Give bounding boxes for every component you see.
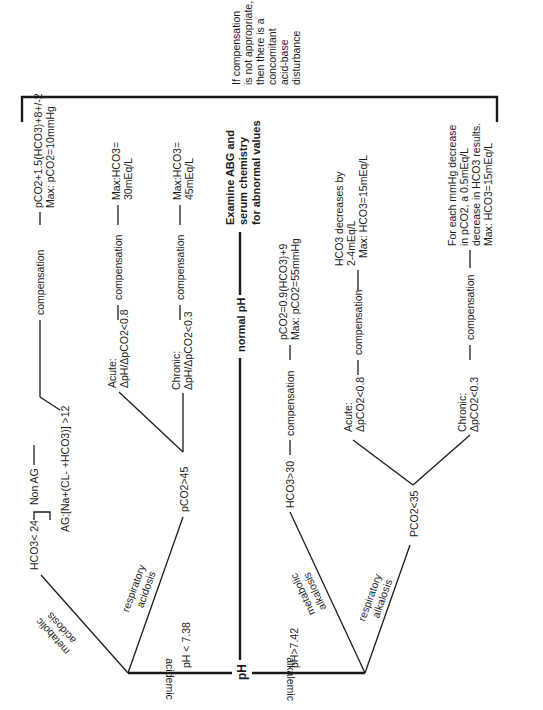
resp-acid-acute-label-2: ΔpH/ΔpCO2<0.8 (118, 309, 130, 388)
resp-alk-chronic-result-4: Max: HCO3=15mEq/L (482, 143, 494, 246)
met-alk-compensation: compensation (284, 370, 296, 436)
ag-formula: AG:[Na+(CL- +HCO3)] >12 (59, 406, 71, 532)
met-acid-formula-2: Max: pCO2=10mmHg (44, 106, 56, 208)
resp-acid-chronic-result-2: 45mEq/L (183, 158, 195, 200)
resp-alk-criterion: PCO2<35 (408, 490, 420, 537)
respiratory-acidosis-label: respiratory acidosis (119, 562, 159, 618)
note-line-3: then there is a (254, 18, 266, 85)
ag-split-line (34, 512, 50, 520)
met-acid-compensation: compensation (34, 249, 46, 315)
root-ph-label: pH (235, 664, 249, 680)
note-line-6: disturbance (290, 31, 302, 85)
resp-acid-chronic-result-1: Max:HCO3= (171, 142, 183, 200)
normal-ph-label: normal pH (235, 298, 247, 352)
respiratory-alkalosis-label: respiratory alkalosis (355, 571, 395, 627)
met-alk-criterion: HCO3>30 (284, 461, 296, 508)
resp-alk-acute-label-1: Acute: (342, 402, 354, 432)
acid-base-flowchart: pH normal pH Examine ABG and serum chemi… (0, 0, 543, 710)
ag-to-compensation (40, 397, 60, 410)
met-acid-formula-1: pCO2+1.5(HCO3)+8+/-2 (32, 93, 44, 208)
note-line-2: is not appropriate, (242, 1, 254, 85)
met-acid-criterion: HCO3< 24 (28, 520, 40, 570)
resp-alk-chronic-label-2: ΔpCO2<0.3 (468, 377, 480, 432)
note-line-5: acid-base (278, 39, 290, 85)
bracket-note: If compensation is not appropriate, then… (230, 1, 302, 85)
examine-abg-text: Examine ABG and serum chemistry for abno… (224, 120, 262, 225)
resp-alk-acute-label-2: ΔpCO2<0.8 (354, 377, 366, 432)
resp-alk-acute-result-2: 2-4mEq/L (345, 220, 357, 266)
resp-alk-acute-edge (353, 440, 413, 485)
examine-line-3: for abnormal values (250, 120, 262, 225)
resp-alk-chronic-result-2: in pCO2, a 0.5mEq/L (458, 148, 470, 246)
alkalemic-threshold: pH>7.42 (288, 628, 300, 668)
resp-alk-chronic-result-3: decrease in HCO3 results. (470, 123, 482, 246)
resp-acid-chronic-label-1: Chronic: (170, 351, 182, 390)
met-alk-formula-2: Max: pCO2=55mmHg (289, 238, 301, 340)
examine-line-2: serum chemistry (237, 136, 249, 225)
resp-acid-chronic-label-2: ΔpH/ΔpCO2<0.3 (182, 311, 194, 390)
resp-alk-chronic-compensation: compensation (464, 274, 476, 340)
note-line-4: concomitant (266, 28, 278, 85)
metabolic-alkalosis-label: metabolic alkalosis (288, 567, 329, 618)
resp-alk-acute-compensation: compensation (352, 289, 364, 355)
resp-acid-acute-edge (119, 392, 183, 452)
acidemic-edge-label: acidemic (164, 658, 176, 699)
resp-alk-acute-result-1: HCO3 decreases by (333, 171, 345, 266)
non-ag-label: Non AG (28, 468, 40, 505)
resp-alk-chronic-label-1: Chronic: (456, 393, 468, 432)
metabolic-acidosis-label: metabolic acidosis (33, 608, 81, 657)
resp-alk-acute-result-3: Max: HCO3=15mEq/L (357, 155, 369, 258)
resp-acid-acute-label-1: Acute: (106, 358, 118, 388)
resp-acid-criterion: pCO2>45 (178, 467, 190, 512)
note-line-1: If compensation (230, 11, 242, 85)
resp-alk-chronic-edge (413, 435, 470, 485)
resp-acid-acute-result-1: Max:HCO3= (110, 142, 122, 200)
resp-acid-acute-result-2: 30mEq/L (122, 158, 134, 200)
resp-alk-chronic-result-1: For each mmHg decrease (446, 124, 458, 246)
bracket-line (22, 97, 497, 122)
acidemic-threshold: pH < 7.38 (180, 622, 192, 668)
resp-acid-acute-compensation: compensation (112, 234, 124, 300)
resp-acid-chronic-compensation: compensation (174, 234, 186, 300)
examine-line-1: Examine ABG and (224, 130, 236, 225)
met-alk-formula-1: pCO2=0.9(HCO3)+9 (277, 244, 289, 340)
